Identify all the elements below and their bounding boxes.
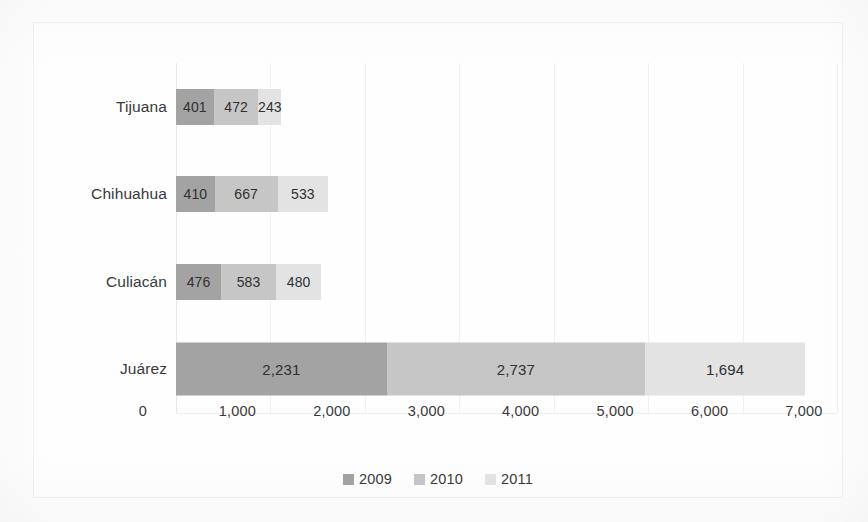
bar-row-tijuana: Tijuana401472243 <box>176 63 837 151</box>
bar-segment-2009[interactable]: 476 <box>176 264 221 300</box>
bar-segment-2010[interactable]: 472 <box>214 89 259 125</box>
bar-value-label: 667 <box>234 186 258 202</box>
plot-area: Tijuana401472243Chihuahua410667533Culiac… <box>176 63 837 413</box>
stacked-bar[interactable]: 476583480 <box>176 264 321 300</box>
category-label: Tijuana <box>116 98 167 116</box>
chart-page: Tijuana401472243Chihuahua410667533Culiac… <box>0 0 868 522</box>
bar-segment-2009[interactable]: 401 <box>176 89 214 125</box>
bar-value-label: 1,694 <box>706 361 744 378</box>
legend-label: 2009 <box>359 471 392 487</box>
legend-swatch-icon <box>485 474 496 485</box>
bar-segment-2011[interactable]: 480 <box>276 264 321 300</box>
stacked-bar[interactable]: 410667533 <box>176 176 328 212</box>
x-tick-label-3000: 3,000 <box>408 403 445 419</box>
bar-row-culiacán: Culiacán476583480 <box>176 238 837 326</box>
stacked-bar[interactable]: 401472243 <box>176 89 281 125</box>
category-label: Culiacán <box>106 273 167 291</box>
category-label: Juárez <box>120 360 167 378</box>
legend-swatch-icon <box>343 474 354 485</box>
x-tick-label-4000: 4,000 <box>502 403 539 419</box>
chart-legend: 200920102011 <box>34 471 842 487</box>
bar-value-label: 410 <box>184 186 208 202</box>
bar-segment-2010[interactable]: 2,737 <box>387 343 645 396</box>
x-tick-label-2000: 2,000 <box>313 403 350 419</box>
bar-segment-2011[interactable]: 533 <box>278 176 328 212</box>
bar-value-label: 583 <box>237 274 261 290</box>
x-tick-label-0: 0 <box>139 403 147 419</box>
legend-swatch-icon <box>414 474 425 485</box>
bar-segment-2009[interactable]: 2,231 <box>176 343 387 396</box>
bar-segment-2010[interactable]: 583 <box>221 264 276 300</box>
bar-value-label: 480 <box>287 274 311 290</box>
legend-label: 2010 <box>430 471 463 487</box>
category-label: Chihuahua <box>91 185 167 203</box>
legend-item-2009[interactable]: 2009 <box>343 471 392 487</box>
bar-value-label: 472 <box>224 99 248 115</box>
bar-value-label: 2,737 <box>497 361 535 378</box>
bar-segment-2009[interactable]: 410 <box>176 176 215 212</box>
bar-value-label: 476 <box>187 274 211 290</box>
legend-label: 2011 <box>501 471 533 487</box>
x-tick-label-6000: 6,000 <box>691 403 728 419</box>
bar-value-label: 243 <box>258 99 282 115</box>
stacked-bar[interactable]: 2,2312,7371,694 <box>176 343 805 396</box>
bar-row-chihuahua: Chihuahua410667533 <box>176 151 837 239</box>
bar-value-label: 533 <box>291 186 315 202</box>
bar-row-juárez: Juárez2,2312,7371,694 <box>176 326 837 414</box>
bar-value-label: 401 <box>183 99 207 115</box>
legend-item-2011[interactable]: 2011 <box>485 471 533 487</box>
bar-segment-2011[interactable]: 243 <box>258 89 281 125</box>
chart-frame: Tijuana401472243Chihuahua410667533Culiac… <box>33 22 843 498</box>
legend-item-2010[interactable]: 2010 <box>414 471 463 487</box>
bar-segment-2011[interactable]: 1,694 <box>645 343 805 396</box>
x-tick-label-1000: 1,000 <box>219 403 256 419</box>
bar-segment-2010[interactable]: 667 <box>215 176 278 212</box>
x-tick-label-5000: 5,000 <box>596 403 633 419</box>
gridline-7000 <box>837 63 838 413</box>
bar-value-label: 2,231 <box>262 361 300 378</box>
x-tick-label-7000: 7,000 <box>785 403 822 419</box>
